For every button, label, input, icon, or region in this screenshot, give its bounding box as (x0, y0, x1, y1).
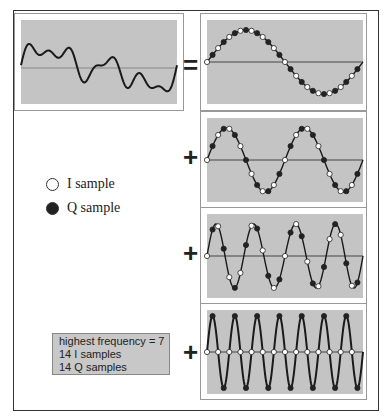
q-sample-dot (277, 277, 282, 282)
i-sample-dot (349, 182, 354, 187)
q-sample-dot (255, 226, 260, 231)
q-sample-dot (355, 385, 360, 390)
i-sample-dot (282, 349, 287, 354)
i-sample-dot (294, 73, 299, 78)
q-sample-dot (277, 171, 282, 176)
info-box: highest frequency = 7 14 I samples 14 Q … (52, 333, 170, 375)
i-sample-dot (316, 144, 321, 149)
q-sample-dot (243, 385, 248, 390)
i-sample-dot (249, 349, 254, 354)
i-sample-dot (271, 349, 276, 354)
i-sample-dot (282, 253, 287, 258)
i-sample-dot (316, 91, 321, 96)
q-sample-dot (221, 126, 226, 131)
i-sample-dot (238, 349, 243, 354)
q-sample-dot (355, 67, 360, 72)
i-sample-icon (46, 178, 59, 191)
i-sample-dot (338, 232, 343, 237)
i-sample-dot (338, 84, 343, 89)
i-sample-dot (349, 73, 354, 78)
q-sample-dot (344, 189, 349, 194)
i-sample-dot (305, 259, 310, 264)
q-sample-dot (232, 132, 237, 137)
i-sample-dot (305, 349, 310, 354)
q-sample-dot (221, 385, 226, 390)
i-sample-dot (349, 349, 354, 354)
info-line-i-samples: 14 I samples (59, 348, 169, 361)
i-sample-dot (238, 28, 243, 33)
q-sample-dot (210, 227, 215, 232)
source-signal-panel (14, 13, 184, 111)
i-sample-dot (271, 285, 276, 290)
q-sample-dot (210, 144, 215, 149)
q-sample-dot (321, 313, 326, 318)
i-sample-dot (204, 59, 209, 64)
q-sample-dot (255, 182, 260, 187)
q-sample-dot (232, 285, 237, 290)
i-sample-dot (282, 157, 287, 162)
i-sample-dot (327, 91, 332, 96)
q-sample-dot (243, 157, 248, 162)
component-panel-2 (200, 111, 367, 208)
i-sample-dot (249, 28, 254, 33)
i-sample-dot (327, 349, 332, 354)
q-sample-dot (221, 39, 226, 44)
q-sample-dot (288, 385, 293, 390)
q-sample-dot (266, 39, 271, 44)
component-panel-3 (200, 207, 367, 304)
q-sample-dot (333, 88, 338, 93)
i-sample-dot (305, 126, 310, 131)
i-sample-dot (204, 253, 209, 258)
i-sample-dot (338, 189, 343, 194)
q-sample-dot (255, 313, 260, 318)
source-waveform (17, 16, 181, 108)
info-line-frequency: highest frequency = 7 (59, 335, 169, 348)
i-sample-dot (216, 224, 221, 229)
i-sample-dot (204, 349, 209, 354)
i-sample-dot (294, 349, 299, 354)
i-sample-dot (271, 46, 276, 51)
q-sample-dot (344, 261, 349, 266)
q-sample-dot (333, 385, 338, 390)
q-sample-dot (288, 230, 293, 235)
i-sample-dot (238, 144, 243, 149)
q-sample-dot (333, 182, 338, 187)
legend: I sample Q sample (46, 172, 120, 220)
i-sample-dot (227, 349, 232, 354)
i-sample-dot (227, 275, 232, 280)
q-sample-dot (243, 27, 248, 32)
i-sample-dot (282, 59, 287, 64)
q-sample-dot (277, 52, 282, 57)
q-sample-dot (344, 313, 349, 318)
q-sample-dot (266, 273, 271, 278)
i-sample-dot (204, 157, 209, 162)
i-sample-dot (294, 132, 299, 137)
q-sample-dot (266, 189, 271, 194)
i-sample-dot (216, 46, 221, 51)
plus-operator-1: + (183, 144, 198, 170)
i-sample-dot (260, 189, 265, 194)
q-sample-dot (277, 313, 282, 318)
component-panel-4 (200, 303, 367, 400)
i-sample-dot (316, 349, 321, 354)
q-sample-dot (221, 246, 226, 251)
i-sample-dot (316, 284, 321, 289)
i-sample-dot (216, 349, 221, 354)
q-sample-dot (355, 171, 360, 176)
q-sample-dot (232, 31, 237, 36)
i-sample-dot (216, 132, 221, 137)
legend-q-sample: Q sample (46, 196, 120, 220)
q-sample-dot (355, 280, 360, 285)
info-line-q-samples: 14 Q samples (59, 361, 169, 374)
q-sample-dot (210, 52, 215, 57)
q-sample-dot (266, 385, 271, 390)
q-sample-dot (288, 144, 293, 149)
q-sample-dot (344, 79, 349, 84)
i-sample-dot (327, 171, 332, 176)
i-sample-dot (260, 248, 265, 253)
i-sample-dot (238, 270, 243, 275)
q-sample-dot (299, 313, 304, 318)
i-sample-dot (227, 126, 232, 131)
equals-operator: = (183, 52, 198, 78)
q-sample-dot (310, 385, 315, 390)
